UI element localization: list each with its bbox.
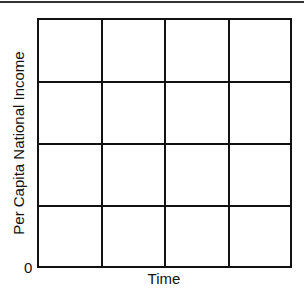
grid-hline [39,143,290,145]
x-axis-label: Time [148,270,181,287]
y-axis-label: Per Capita National Income [10,51,27,234]
origin-label: 0 [24,259,32,276]
grid-hline [39,205,290,207]
top-border-line [0,1,304,3]
plot-area [37,18,292,268]
grid-hline [39,81,290,83]
